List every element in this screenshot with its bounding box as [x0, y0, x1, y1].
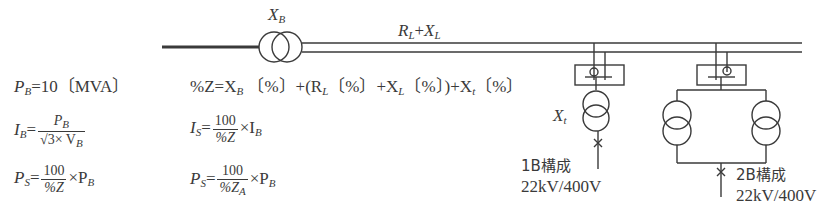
config-2b-title: 2B構成 — [736, 166, 786, 183]
formula-ib: IB=PB√3× VB — [14, 114, 87, 149]
formula-ps-1: PS=100%Z×PB — [14, 164, 94, 195]
config-2b-voltage: 22kV/400V — [736, 187, 816, 204]
main-transformer-label: XB — [268, 6, 285, 25]
main-transformer-icon — [259, 32, 302, 62]
formula-ps-2: PS=100%ZA×PB — [190, 164, 275, 197]
formula-pb: PB=10〔MVA〕 — [14, 78, 129, 97]
transformer-2b-left-icon — [663, 101, 691, 145]
transformer-2b-right-icon — [752, 101, 780, 145]
formula-is: IS=100%Z×IB — [190, 114, 262, 145]
branch-1b — [575, 43, 624, 169]
config-1b-title: 1B構成 — [521, 157, 571, 174]
transformer-1b-icon — [583, 91, 609, 131]
config-1b-voltage: 22kV/400V — [521, 178, 601, 195]
transformer-1b-label: Xt — [553, 107, 566, 126]
formula-percent-z: %Z=XB 〔%〕+(RL〔%〕+XL〔%〕)+Xt〔%〕 — [190, 78, 523, 97]
line-impedance-label: RL+XL — [398, 22, 441, 41]
